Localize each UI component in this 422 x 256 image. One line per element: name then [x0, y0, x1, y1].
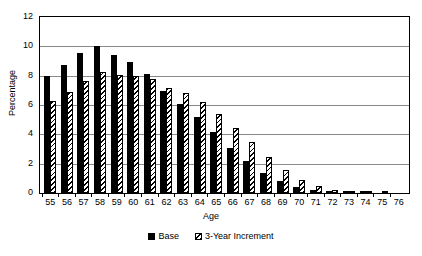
y-tick-label-0: 0 [28, 188, 33, 197]
bar-3-year-increment-59[interactable] [117, 75, 123, 193]
bar-3-year-increment-61[interactable] [150, 79, 156, 193]
bar-group-60 [125, 17, 142, 193]
x-tick-label-63: 63 [175, 197, 192, 208]
y-tick-label-6: 6 [28, 100, 33, 109]
bar-3-year-increment-64[interactable] [200, 102, 206, 193]
bar-group-56 [59, 17, 76, 193]
bar-group-57 [75, 17, 92, 193]
bar-3-year-increment-68[interactable] [266, 157, 272, 193]
bar-group-69 [274, 17, 291, 193]
bar-group-73 [341, 17, 358, 193]
bar-group-66 [225, 17, 242, 193]
bar-group-67 [241, 17, 258, 193]
bar-3-year-increment-55[interactable] [50, 101, 56, 193]
y-tick-label-4: 4 [28, 129, 33, 138]
bar-3-year-increment-56[interactable] [67, 92, 73, 193]
bar-3-year-increment-58[interactable] [100, 72, 106, 193]
y-tick-label-10: 10 [23, 41, 33, 50]
bar-group-65 [208, 17, 225, 193]
bar-chart: 024681012 Percentage 5556575859606162636… [0, 0, 422, 256]
bar-3-year-increment-69[interactable] [283, 170, 289, 193]
bar-3-year-increment-67[interactable] [249, 142, 255, 193]
legend-label-3-year-increment: 3-Year Increment [205, 231, 274, 241]
x-tick-label-70: 70 [291, 197, 308, 208]
bar-group-76 [390, 17, 407, 193]
bar-group-64 [191, 17, 208, 193]
y-tick-label-12: 12 [23, 12, 33, 21]
x-tick-label-64: 64 [191, 197, 208, 208]
bar-group-63 [175, 17, 192, 193]
x-tick-label-68: 68 [258, 197, 275, 208]
y-tick-label-8: 8 [28, 71, 33, 80]
x-tick-label-60: 60 [125, 197, 142, 208]
legend-swatch-increment-icon [195, 233, 202, 240]
x-tick-label-57: 57 [75, 197, 92, 208]
legend-item-3-year-increment[interactable]: 3-Year Increment [195, 231, 274, 241]
bar-3-year-increment-74[interactable] [366, 191, 372, 193]
bar-groups [40, 17, 409, 193]
bar-3-year-increment-70[interactable] [299, 180, 305, 193]
legend-swatch-base-icon [148, 233, 155, 240]
bar-group-70 [291, 17, 308, 193]
x-tick-label-58: 58 [92, 197, 109, 208]
x-tick-label-75: 75 [374, 197, 391, 208]
x-tick-label-69: 69 [274, 197, 291, 208]
bar-3-year-increment-65[interactable] [216, 114, 222, 193]
bar-3-year-increment-72[interactable] [332, 190, 338, 193]
bar-3-year-increment-71[interactable] [316, 186, 322, 193]
bar-group-71 [308, 17, 325, 193]
bar-3-year-increment-62[interactable] [166, 88, 172, 193]
x-tick-label-67: 67 [241, 197, 258, 208]
bar-3-year-increment-75[interactable] [382, 191, 388, 193]
bar-group-59 [108, 17, 125, 193]
x-tick-label-61: 61 [142, 197, 159, 208]
x-tick-label-59: 59 [108, 197, 125, 208]
bar-group-58 [92, 17, 109, 193]
x-tick-label-72: 72 [324, 197, 341, 208]
x-tick-label-65: 65 [208, 197, 225, 208]
bar-group-55 [42, 17, 59, 193]
legend-label-base: Base [158, 231, 179, 241]
x-axis-title: Age [0, 211, 422, 221]
bar-3-year-increment-66[interactable] [233, 128, 239, 193]
bar-group-61 [142, 17, 159, 193]
x-axis-labels: 5556575859606162636465666768697071727374… [40, 197, 409, 208]
x-tick-label-55: 55 [42, 197, 59, 208]
bar-group-74 [357, 17, 374, 193]
bar-group-72 [324, 17, 341, 193]
x-tick-label-74: 74 [357, 197, 374, 208]
bar-3-year-increment-60[interactable] [133, 76, 139, 193]
bar-group-62 [158, 17, 175, 193]
y-tick-label-2: 2 [28, 159, 33, 168]
legend-item-base[interactable]: Base [148, 231, 179, 241]
x-tick-label-66: 66 [225, 197, 242, 208]
y-axis-title: Percentage [7, 53, 17, 133]
bar-group-75 [374, 17, 391, 193]
x-tick-label-62: 62 [158, 197, 175, 208]
bar-3-year-increment-63[interactable] [183, 93, 189, 193]
x-tick-label-71: 71 [308, 197, 325, 208]
x-tick-label-76: 76 [390, 197, 407, 208]
x-tick-label-73: 73 [341, 197, 358, 208]
bar-3-year-increment-73[interactable] [349, 191, 355, 193]
chart-legend: Base 3-Year Increment [0, 231, 422, 241]
bar-group-68 [258, 17, 275, 193]
x-tick-label-56: 56 [59, 197, 76, 208]
bar-3-year-increment-57[interactable] [83, 81, 89, 193]
